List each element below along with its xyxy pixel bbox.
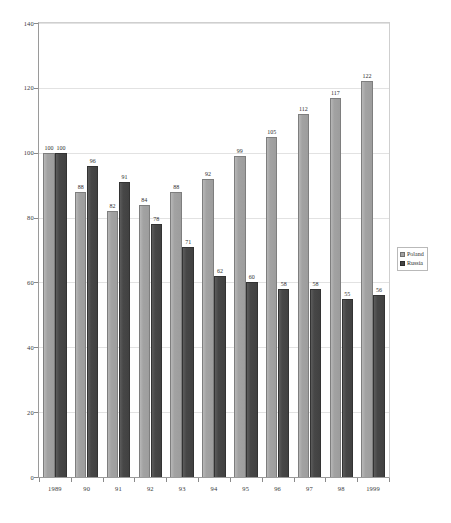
y-tick-mark <box>34 412 38 413</box>
bar-value-label: 58 <box>274 281 294 288</box>
y-tick-mark <box>34 23 38 24</box>
bar-poland-97 <box>298 114 310 477</box>
bar-poland-1989 <box>43 153 55 477</box>
x-tick-mark <box>389 478 390 482</box>
x-tick-mark <box>39 478 40 482</box>
x-tick-label-94: 94 <box>199 485 229 493</box>
x-tick-mark <box>71 478 72 482</box>
bar-poland-95 <box>234 156 246 477</box>
x-tick-label-97: 97 <box>294 485 324 493</box>
x-tick-label-1989: 1989 <box>40 485 70 493</box>
bar-russia-92 <box>151 224 163 477</box>
bar-poland-96 <box>266 137 278 478</box>
y-tick-mark <box>34 218 38 219</box>
x-tick-mark <box>325 478 326 482</box>
bar-russia-97 <box>310 289 322 477</box>
bar-russia-91 <box>119 182 131 477</box>
y-tick-mark <box>34 282 38 283</box>
bar-value-label: 60 <box>242 274 262 281</box>
bar-poland-94 <box>202 179 214 477</box>
bar-value-label: 96 <box>83 158 103 165</box>
bar-value-label: 88 <box>166 184 186 191</box>
bar-value-label: 71 <box>178 239 198 246</box>
x-tick-label-95: 95 <box>231 485 261 493</box>
y-tick-label: 140 <box>0 20 34 27</box>
bar-poland-93 <box>170 192 182 477</box>
bar-value-label: 58 <box>306 281 326 288</box>
y-tick-mark <box>34 153 38 154</box>
y-tick-mark <box>34 88 38 89</box>
x-tick-label-98: 98 <box>326 485 356 493</box>
bar-poland-90 <box>75 192 87 477</box>
x-tick-label-1999: 1999 <box>358 485 388 493</box>
y-tick-label: 120 <box>0 84 34 91</box>
bar-value-label: 62 <box>210 268 230 275</box>
bar-russia-98 <box>342 299 354 477</box>
y-tick-label: 60 <box>0 279 34 286</box>
y-tick-label: 0 <box>0 474 34 481</box>
y-tick-label: 40 <box>0 344 34 351</box>
y-tick-label: 100 <box>0 149 34 156</box>
x-tick-mark <box>262 478 263 482</box>
bar-poland-1999 <box>361 81 373 477</box>
bars-layer: 1001008896829184788871926299601055811258… <box>39 23 389 477</box>
bar-poland-92 <box>139 205 151 477</box>
bar-russia-94 <box>214 276 226 477</box>
bar-value-label: 100 <box>51 145 71 152</box>
legend-item-poland[interactable]: Poland <box>400 251 424 259</box>
x-tick-mark <box>230 478 231 482</box>
legend-item-russia[interactable]: Russia <box>400 259 424 267</box>
bar-russia-95 <box>246 282 258 477</box>
x-tick-mark <box>134 478 135 482</box>
chart-legend: PolandRussia <box>397 247 428 271</box>
bar-chart: 020406080100120140 100100889682918478887… <box>0 0 451 523</box>
bar-value-label: 122 <box>357 73 377 80</box>
y-tick-label: 80 <box>0 214 34 221</box>
legend-swatch-icon <box>400 261 405 266</box>
legend-label: Poland <box>407 251 424 258</box>
bar-russia-96 <box>278 289 290 477</box>
bar-value-label: 117 <box>326 90 346 97</box>
legend-label: Russia <box>407 260 423 267</box>
x-tick-label-92: 92 <box>135 485 165 493</box>
bar-russia-93 <box>182 247 194 477</box>
x-tick-label-93: 93 <box>167 485 197 493</box>
x-tick-mark <box>103 478 104 482</box>
bar-value-label: 92 <box>198 171 218 178</box>
bar-poland-98 <box>330 98 342 477</box>
y-tick-mark <box>34 477 38 478</box>
bar-value-label: 91 <box>115 174 135 181</box>
y-tick-label: 20 <box>0 409 34 416</box>
bar-value-label: 84 <box>135 197 155 204</box>
bar-value-label: 55 <box>338 291 358 298</box>
x-tick-mark <box>198 478 199 482</box>
x-tick-mark <box>357 478 358 482</box>
bar-value-label: 99 <box>230 148 250 155</box>
bar-value-label: 56 <box>369 287 389 294</box>
bar-value-label: 78 <box>147 216 167 223</box>
x-tick-label-96: 96 <box>263 485 293 493</box>
bar-value-label: 105 <box>262 129 282 136</box>
bar-russia-1999 <box>373 295 385 477</box>
x-tick-label-91: 91 <box>104 485 134 493</box>
x-tick-mark <box>294 478 295 482</box>
legend-swatch-icon <box>400 252 405 257</box>
bar-russia-90 <box>87 166 99 477</box>
x-tick-label-90: 90 <box>72 485 102 493</box>
y-tick-mark <box>34 347 38 348</box>
x-tick-mark <box>166 478 167 482</box>
bar-value-label: 112 <box>294 106 314 113</box>
bar-russia-1989 <box>55 153 67 477</box>
bar-poland-91 <box>107 211 119 477</box>
